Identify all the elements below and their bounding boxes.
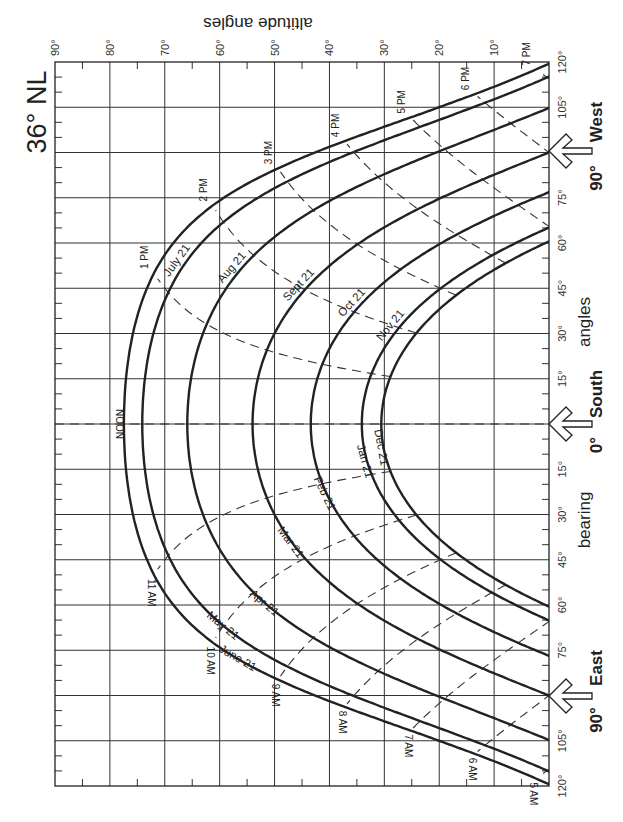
hour-label: 10 AM bbox=[205, 647, 216, 675]
hour-line bbox=[216, 210, 417, 333]
hour-line bbox=[281, 553, 457, 676]
bearing-tick-label: 45° bbox=[556, 551, 568, 568]
altitude-tick-label: 50° bbox=[269, 39, 281, 56]
altitude-tick-label: 30° bbox=[378, 39, 390, 56]
hour-label: 2 PM bbox=[198, 178, 209, 201]
month-label: Jan 21 bbox=[355, 443, 376, 479]
hour-label: 9 AM bbox=[270, 684, 281, 707]
west-label: West bbox=[587, 102, 606, 143]
hour-line bbox=[478, 97, 564, 164]
month-label: Mar 21 bbox=[275, 524, 306, 560]
south-label: South bbox=[587, 370, 606, 418]
altitude-tick-label: 70° bbox=[159, 39, 171, 56]
bearing-axis-label-right: angles bbox=[575, 297, 594, 347]
arrow-icon-east bbox=[549, 679, 592, 713]
hour-label: 11 AM bbox=[146, 579, 157, 607]
east-arrow: 90° East bbox=[549, 650, 606, 733]
bearing-tick-label: 120° bbox=[556, 51, 568, 74]
hour-label: 4 PM bbox=[330, 114, 341, 137]
arrow-icon-south bbox=[549, 407, 592, 441]
altitude-axis-title: altitude angles bbox=[203, 14, 313, 33]
hour-label: 5 PM bbox=[396, 90, 407, 113]
month-label: Dec 21 bbox=[372, 428, 390, 466]
sun-path-chart: 90°80°70°60°50°40°30°20°10°120°105°75°60… bbox=[0, 0, 623, 822]
east-label: East bbox=[587, 650, 606, 686]
altitude-tick-label: 40° bbox=[323, 39, 335, 56]
hour-label: 6 PM bbox=[460, 67, 471, 90]
month-label: Feb 21 bbox=[312, 474, 338, 512]
altitude-tick-label: 60° bbox=[214, 39, 226, 56]
hour-label: 7 AM bbox=[403, 735, 414, 758]
bearing-tick-label: 60° bbox=[556, 235, 568, 252]
hour-label: 6 AM bbox=[467, 758, 478, 781]
altitude-tick-label: 20° bbox=[433, 39, 445, 56]
bearing-tick-label: 30° bbox=[556, 325, 568, 342]
altitude-tick-label: 80° bbox=[104, 39, 116, 56]
hour-label: 3 PM bbox=[263, 141, 274, 164]
bearing-tick-label: 60° bbox=[556, 597, 568, 614]
month-label: Apr 21 bbox=[248, 587, 281, 618]
west-degree: 90° bbox=[587, 165, 606, 191]
bearing-tick-label: 30° bbox=[556, 506, 568, 523]
bearing-tick-label: 105° bbox=[556, 96, 568, 119]
bearing-tick-label: 105° bbox=[556, 729, 568, 752]
altitude-tick-label: 90° bbox=[49, 39, 61, 56]
bearing-tick-label: 15° bbox=[556, 370, 568, 387]
chart-grid: 90°80°70°60°50°40°30°20°10°120°105°75°60… bbox=[49, 39, 568, 797]
bearing-tick-label: 75° bbox=[556, 642, 568, 659]
hour-label: 8 AM bbox=[337, 711, 348, 734]
south-degree: 0° bbox=[587, 437, 606, 453]
altitude-tick-label: 10° bbox=[488, 39, 500, 56]
bearing-tick-label: 45° bbox=[556, 280, 568, 297]
east-degree: 90° bbox=[587, 707, 606, 733]
bearing-tick-label: 75° bbox=[556, 189, 568, 206]
chart-title: 36° NL bbox=[22, 71, 52, 154]
bearing-tick-label: 15° bbox=[556, 461, 568, 478]
bearing-axis-label-left: bearing bbox=[575, 492, 594, 549]
arrow-icon-west bbox=[549, 134, 592, 168]
noon-label: NOON bbox=[114, 409, 125, 439]
bearing-tick-label: 120° bbox=[556, 775, 568, 798]
hour-label: 1 PM bbox=[139, 246, 150, 269]
hour-line bbox=[216, 515, 417, 638]
month-label: May 21 bbox=[205, 609, 242, 642]
